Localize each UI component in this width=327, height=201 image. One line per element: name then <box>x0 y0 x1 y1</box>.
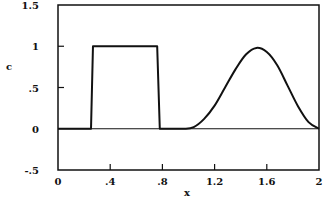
chart: 0.4.81.21.62 -.50.511.5 x c <box>0 0 327 201</box>
x-tick-label: .4 <box>105 176 115 187</box>
y-tick-label: -.5 <box>24 165 39 176</box>
data-line <box>58 46 319 129</box>
y-tick-label: .5 <box>29 83 39 94</box>
y-tick-label: 1.5 <box>22 0 39 11</box>
x-axis-ticks: 0.4.81.21.62 <box>55 164 323 187</box>
plot-frame <box>58 5 319 170</box>
x-tick-label: 1.6 <box>258 176 275 187</box>
x-axis-label: x <box>184 187 191 198</box>
x-tick-label: .8 <box>157 176 167 187</box>
x-tick-label: 2 <box>316 176 323 187</box>
x-tick-label: 1.2 <box>206 176 223 187</box>
y-axis-label: c <box>6 61 12 72</box>
y-tick-label: 0 <box>32 124 39 135</box>
y-tick-label: 1 <box>32 41 39 52</box>
x-tick-label: 0 <box>55 176 62 187</box>
